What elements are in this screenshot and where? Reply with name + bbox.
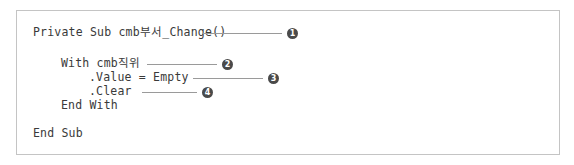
code-line-3: .Value = Empty xyxy=(89,70,189,84)
callout-3: 3 xyxy=(193,71,279,85)
callout-4-marker: 4 xyxy=(202,87,213,98)
callout-2-leader-line xyxy=(147,64,217,65)
code-line-6: End Sub xyxy=(33,126,83,140)
code-snippet-box: Private Sub cmb부서_Change() With cmb직위 .V… xyxy=(16,10,560,155)
code-line-4: .Clear xyxy=(89,84,132,98)
callout-4: 4 xyxy=(142,85,213,99)
code-line-1: Private Sub cmb부서_Change() xyxy=(33,25,226,39)
callout-1-marker: 1 xyxy=(287,28,298,39)
callout-1-leader-line xyxy=(202,33,282,34)
callout-3-leader-line xyxy=(193,78,263,79)
callout-3-marker: 3 xyxy=(268,73,279,84)
code-line-2: With cmb직위 xyxy=(61,56,140,70)
callout-2-marker: 2 xyxy=(222,59,233,70)
callout-4-leader-line xyxy=(142,92,197,93)
callout-2: 2 xyxy=(147,57,233,71)
screenshot-root: Private Sub cmb부서_Change() With cmb직위 .V… xyxy=(0,0,574,165)
code-line-5: End With xyxy=(61,98,118,112)
callout-1: 1 xyxy=(202,26,298,40)
